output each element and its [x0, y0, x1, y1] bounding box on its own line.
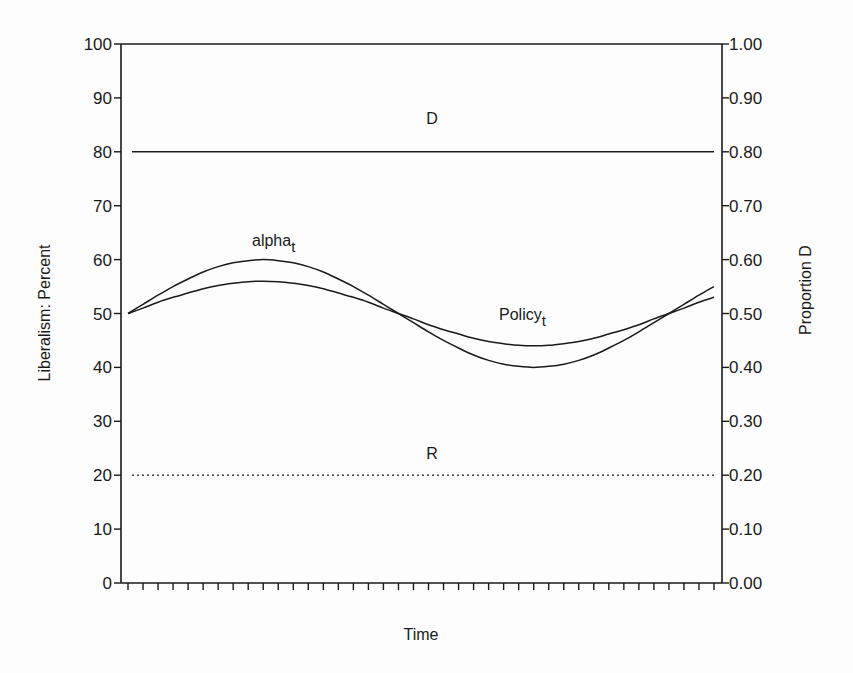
right-y-axis-ticks: 0.000.100.200.300.400.500.600.700.800.90…	[722, 35, 762, 593]
chart: 0102030405060708090100 0.000.100.200.300…	[0, 0, 853, 673]
y2-tick-label: 0.20	[729, 466, 762, 485]
label-r: R	[426, 445, 438, 462]
y2-tick-label: 1.00	[729, 35, 762, 54]
y-tick-label: 50	[93, 305, 112, 324]
series-line-alpha-t	[128, 260, 714, 368]
y2-tick-label: 0.10	[729, 520, 762, 539]
y2-tick-label: 0.60	[729, 251, 762, 270]
series-line-policy-t	[128, 281, 714, 346]
x-axis-ticks	[128, 583, 714, 590]
y-axis-title: Liberalism: Percent	[36, 244, 53, 382]
label-policy-sub: t	[542, 312, 547, 329]
y-tick-label: 30	[93, 412, 112, 431]
left-y-axis-ticks: 0102030405060708090100	[84, 35, 121, 593]
plot-frame	[121, 44, 722, 583]
label-alpha: alphat	[252, 232, 296, 255]
y2-tick-label: 0.80	[729, 143, 762, 162]
y2-tick-label: 0.40	[729, 358, 762, 377]
y2-axis-title: Proportion D	[797, 245, 814, 335]
label-d: D	[426, 110, 438, 127]
y-tick-label: 40	[93, 358, 112, 377]
y-tick-label: 70	[93, 197, 112, 216]
y-tick-label: 0	[103, 574, 112, 593]
y2-tick-label: 0.90	[729, 89, 762, 108]
y-tick-label: 10	[93, 520, 112, 539]
label-alpha-sub: t	[291, 238, 296, 255]
y-tick-label: 60	[93, 251, 112, 270]
y2-tick-label: 0.00	[729, 574, 762, 593]
x-axis-title: Time	[404, 626, 439, 643]
y-tick-label: 80	[93, 143, 112, 162]
y-tick-label: 90	[93, 89, 112, 108]
label-alpha-main: alpha	[252, 232, 291, 249]
y-tick-label: 20	[93, 466, 112, 485]
series-lines	[128, 152, 714, 475]
label-policy: Policyt	[499, 306, 547, 329]
y2-tick-label: 0.50	[729, 305, 762, 324]
y2-tick-label: 0.30	[729, 412, 762, 431]
label-policy-main: Policy	[499, 306, 542, 323]
y-tick-label: 100	[84, 35, 112, 54]
y2-tick-label: 0.70	[729, 197, 762, 216]
